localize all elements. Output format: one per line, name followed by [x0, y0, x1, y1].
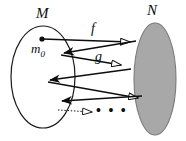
point-m0-base: m — [31, 41, 40, 56]
map-f-label: f — [91, 22, 95, 36]
arrow-forward-3 — [48, 82, 138, 98]
set-M-label: M — [36, 6, 49, 21]
map-g-label: g — [95, 50, 102, 64]
arrow-g-forward — [61, 55, 121, 65]
point-m0-subscript: 0 — [40, 49, 45, 59]
arrow-dotted — [58, 110, 92, 112]
set-N-ellipse — [134, 23, 176, 135]
arrow-f-forward — [42, 39, 130, 42]
arrow-back-2 — [50, 69, 131, 80]
arrow-back-3 — [62, 96, 142, 101]
ellipsis-label: • • • — [96, 104, 128, 118]
set-N-label: N — [147, 3, 157, 18]
point-m0-label: m0 — [31, 42, 45, 59]
mapping-diagram: M N m0 f g • • • — [0, 0, 186, 141]
